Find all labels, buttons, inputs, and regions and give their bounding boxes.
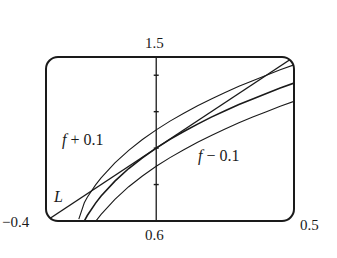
series-f-curve [79, 83, 294, 237]
f-plus-text: + 0.1 [66, 131, 103, 148]
f-minus-text: − 0.1 [202, 147, 239, 164]
series-f-plus-curve [79, 65, 294, 219]
x-max-label: 0.5 [300, 218, 319, 233]
f-plus-annotation: f + 0.1 [62, 132, 103, 148]
L-symbol: L [54, 188, 63, 205]
y-max-label: 1.5 [145, 36, 164, 51]
y-min-label: 0.6 [145, 228, 164, 243]
f-minus-annotation: f − 0.1 [198, 148, 239, 164]
chart-canvas [0, 0, 337, 258]
x-min-label: −0.4 [2, 215, 29, 230]
L-annotation: L [54, 189, 63, 205]
